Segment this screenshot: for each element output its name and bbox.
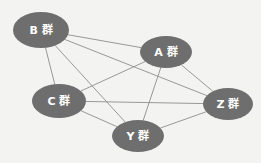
node-a[interactable]: A 群 xyxy=(140,36,192,68)
node-label-c: C 群 xyxy=(48,94,71,108)
edge-a-y xyxy=(143,68,161,121)
nodes-layer: B 群A 群C 群Z 群Y 群 xyxy=(13,12,253,152)
node-label-b: B 群 xyxy=(29,23,52,37)
node-label-z: Z 群 xyxy=(217,97,240,111)
diagram-canvas: B 群A 群C 群Z 群Y 群 xyxy=(0,0,261,163)
node-c[interactable]: C 群 xyxy=(32,84,86,118)
edge-b-a xyxy=(68,35,141,48)
edge-a-c xyxy=(81,62,145,91)
node-label-y: Y 群 xyxy=(126,129,150,143)
edge-z-y xyxy=(161,112,207,128)
edge-c-z xyxy=(86,101,203,103)
node-b[interactable]: B 群 xyxy=(13,12,69,48)
node-label-a: A 群 xyxy=(154,45,177,59)
edge-c-y xyxy=(81,111,117,127)
graph-svg: B 群A 群C 群Z 群Y 群 xyxy=(0,0,261,163)
node-z[interactable]: Z 群 xyxy=(203,88,253,120)
node-y[interactable]: Y 群 xyxy=(112,120,164,152)
edge-b-c xyxy=(46,48,55,84)
